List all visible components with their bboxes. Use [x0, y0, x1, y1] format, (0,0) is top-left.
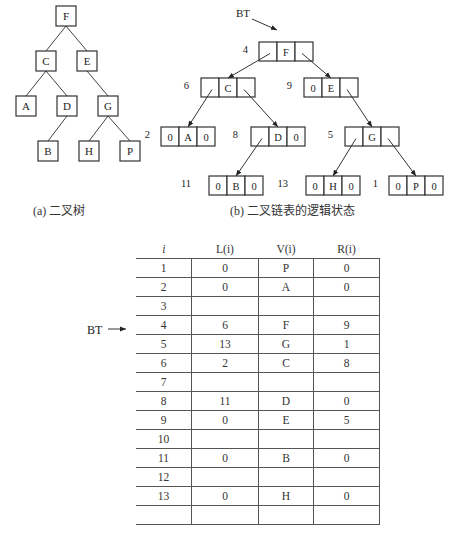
svg-text:11: 11 — [181, 178, 191, 189]
cell-i: 6 — [136, 354, 192, 373]
cell-r: 9 — [314, 316, 380, 335]
cell-r: 0 — [314, 392, 380, 411]
svg-text:E: E — [328, 83, 334, 94]
tree-node: C — [36, 51, 56, 71]
svg-text:1: 1 — [373, 178, 378, 189]
cell-r: 1 — [314, 335, 380, 354]
svg-text:B: B — [44, 145, 51, 157]
cell-v: A — [259, 278, 314, 297]
cell-v: B — [259, 449, 314, 468]
cell-i: 4 — [136, 316, 192, 335]
svg-text:0: 0 — [395, 181, 400, 192]
table-bt-label: BT — [87, 323, 102, 338]
header-i: i — [136, 240, 192, 259]
cell-r: 5 — [314, 411, 380, 430]
cell-l: 6 — [192, 316, 259, 335]
linked-node: 0P01 — [373, 176, 443, 195]
svg-text:H: H — [329, 181, 337, 192]
svg-text:F: F — [283, 47, 289, 58]
linked-node: C6 — [184, 78, 255, 97]
svg-text:F: F — [63, 10, 69, 22]
cell-r: 0 — [314, 449, 380, 468]
cell-l: 11 — [192, 392, 259, 411]
table-row: 90E5 — [136, 411, 380, 430]
cell-v: D — [259, 392, 314, 411]
svg-text:8: 8 — [233, 129, 238, 140]
tree-node: D — [57, 96, 77, 116]
cell-i: 12 — [136, 468, 192, 487]
cell-v — [259, 506, 314, 525]
tree-node: F — [56, 6, 76, 26]
linked-list-nodes: BTF4C60E90A02D08G50B0110H0130P01 — [145, 7, 443, 195]
table-row: 7 — [136, 373, 380, 392]
svg-text:0: 0 — [251, 181, 256, 192]
cell-l: 0 — [192, 411, 259, 430]
svg-text:G: G — [104, 100, 112, 112]
binary-tree: FCEADGBHP — [16, 6, 140, 161]
tree-node: G — [98, 96, 118, 116]
cell-r — [314, 430, 380, 449]
cell-l: 0 — [192, 259, 259, 278]
linked-node: D08 — [233, 127, 305, 146]
cell-v: G — [259, 335, 314, 354]
table-row: 20A0 — [136, 278, 380, 297]
cell-i: 9 — [136, 411, 192, 430]
cell-v: F — [259, 316, 314, 335]
cell-l: 13 — [192, 335, 259, 354]
svg-text:G: G — [368, 132, 376, 143]
table-header: i L(i) V(i) R(i) — [136, 240, 380, 259]
svg-text:D: D — [274, 132, 282, 143]
cell-r: 8 — [314, 354, 380, 373]
tree-node: P — [120, 141, 140, 161]
svg-text:BT: BT — [236, 7, 250, 19]
svg-text:E: E — [84, 55, 91, 67]
table-row: 46F9 — [136, 316, 380, 335]
cell-l — [192, 430, 259, 449]
linked-node: 0B011 — [181, 176, 263, 195]
cell-v — [259, 430, 314, 449]
svg-text:C: C — [224, 83, 231, 94]
cell-l — [192, 506, 259, 525]
cell-i: 11 — [136, 449, 192, 468]
tree-node: E — [77, 51, 97, 71]
svg-text:6: 6 — [184, 80, 189, 91]
svg-text:P: P — [413, 181, 419, 192]
cell-v: H — [259, 487, 314, 506]
cell-v: C — [259, 354, 314, 373]
cell-i: 5 — [136, 335, 192, 354]
cell-l — [192, 297, 259, 316]
tree-edges — [26, 26, 130, 141]
cell-l — [192, 468, 259, 487]
cell-v: E — [259, 411, 314, 430]
cell-l: 0 — [192, 487, 259, 506]
linked-node: 0H013 — [278, 176, 361, 195]
svg-text:H: H — [85, 145, 93, 157]
cell-i: 1 — [136, 259, 192, 278]
tree-node: B — [38, 141, 58, 161]
cell-l: 0 — [192, 278, 259, 297]
cell-l: 0 — [192, 449, 259, 468]
svg-text:A: A — [22, 100, 30, 112]
svg-text:0: 0 — [215, 181, 220, 192]
cell-r: 0 — [314, 278, 380, 297]
linked-caption: (b) 二叉链表的逻辑状态 — [230, 201, 355, 219]
cell-i — [136, 506, 192, 525]
table-row: 10P0 — [136, 259, 380, 278]
svg-text:9: 9 — [287, 80, 292, 91]
cell-i: 13 — [136, 487, 192, 506]
table-row: 12 — [136, 468, 380, 487]
header-l: L(i) — [192, 240, 259, 259]
svg-text:B: B — [232, 181, 239, 192]
svg-text:0: 0 — [348, 181, 353, 192]
cell-r — [314, 506, 380, 525]
tree-caption: (a) 二叉树 — [33, 201, 85, 219]
svg-text:C: C — [42, 55, 49, 67]
svg-text:0: 0 — [431, 181, 436, 192]
table-row — [136, 506, 380, 525]
linked-node: 0A02 — [145, 127, 215, 146]
cell-r — [314, 373, 380, 392]
table-row: 3 — [136, 297, 380, 316]
table-row: 513G1 — [136, 335, 380, 354]
svg-text:A: A — [184, 132, 192, 143]
linked-node: G5 — [328, 127, 399, 146]
